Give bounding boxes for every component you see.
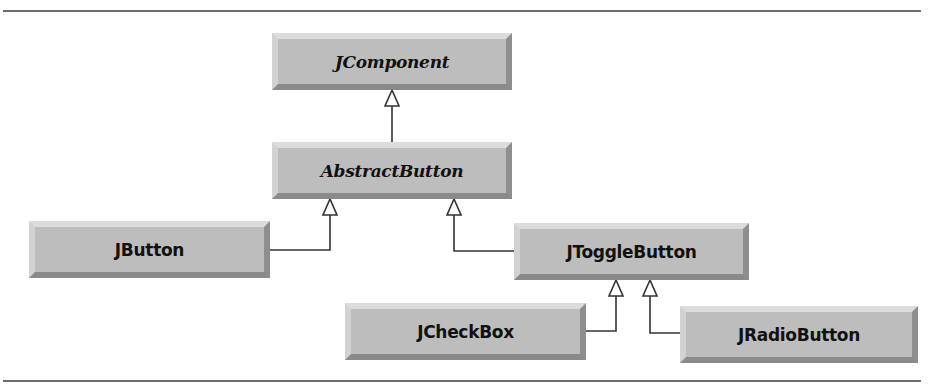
class-label: JButton [115, 240, 184, 260]
class-label: JToggleButton [566, 242, 696, 262]
class-jtogglebutton: JToggleButton [514, 223, 749, 280]
class-jradiobutton: JRadioButton [680, 306, 918, 363]
class-label: JRadioButton [738, 325, 860, 345]
generalization-jtogglebutton-abstractbutton [447, 199, 514, 251]
class-label: AbstractButton [321, 161, 464, 181]
class-label: JCheckBox [417, 322, 514, 342]
class-jcheckbox: JCheckBox [345, 303, 586, 360]
class-abstractbutton: AbstractButton [272, 142, 512, 199]
generalization-jradiobutton-jtogglebutton [643, 280, 680, 333]
class-jcomponent: JComponent [272, 33, 512, 90]
generalization-abstractbutton-jcomponent [385, 90, 399, 142]
generalization-jbutton-abstractbutton [270, 199, 337, 250]
generalization-jcheckbox-jtogglebutton [586, 280, 623, 331]
class-jbutton: JButton [29, 221, 270, 278]
class-label: JComponent [335, 52, 450, 72]
